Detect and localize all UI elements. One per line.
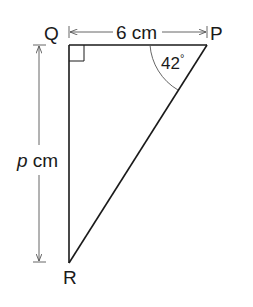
side-unit-cm: cm <box>28 150 59 171</box>
triangle <box>69 45 207 263</box>
side-variable-p: p <box>16 150 28 171</box>
side-label-QP: 6 cm <box>116 22 157 43</box>
triangle-diagram: Q P R 6 cm 42° p cm <box>0 0 253 307</box>
angle-label-P: 42° <box>161 52 184 73</box>
angle-value: 42 <box>161 54 180 73</box>
vertex-label-Q: Q <box>44 23 59 44</box>
right-angle-marker <box>69 45 84 61</box>
vertex-label-P: P <box>210 23 223 44</box>
degree-symbol: ° <box>180 52 184 64</box>
side-label-QR: p cm <box>16 150 58 171</box>
vertex-label-R: R <box>63 267 77 288</box>
side-PR-hypotenuse <box>69 45 207 263</box>
